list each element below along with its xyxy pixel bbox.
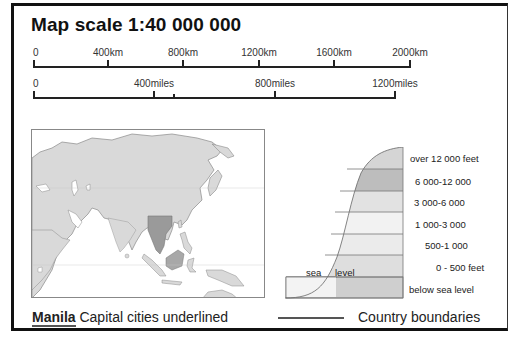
boundary-legend-text: Country boundaries: [358, 309, 480, 325]
km-scale-label: 2000km: [392, 47, 428, 58]
km-scale-label: 800km: [168, 47, 198, 58]
km-scale-label: 1600km: [316, 47, 352, 58]
eurasia-land: [32, 134, 222, 298]
capital-legend: Manila Capital cities underlined: [32, 309, 228, 325]
miles-scale-bar: 0400miles800miles1200miles: [33, 78, 433, 108]
miles-scale-tick: [33, 91, 35, 98]
km-scale-label: 1200km: [241, 47, 277, 58]
band-label-3000-6000: 3 000-6 000: [414, 197, 465, 208]
level-label: level: [335, 267, 355, 278]
locator-map: [31, 129, 265, 298]
km-scale-line: [33, 66, 411, 68]
asia-map-graphic: [32, 130, 265, 298]
band-label-6000-12000: 6 000-12 000: [415, 176, 471, 187]
km-scale-tick: [182, 60, 184, 67]
km-scale-bar: 0400km800km1200km1600km2000km: [33, 47, 433, 77]
band-label-500-1000: 500-1 000: [425, 240, 468, 251]
miles-scale-label: 0: [33, 78, 39, 89]
boundary-line-symbol: [278, 317, 344, 319]
band-label-0-500: 0 - 500 feet: [436, 262, 484, 273]
miles-scale-minor-tick: [173, 94, 175, 98]
band-label-1000-3000: 1 000-3 000: [415, 219, 466, 230]
km-scale-tick: [409, 60, 411, 67]
km-scale-tick: [258, 60, 260, 67]
miles-scale-label: 400miles: [134, 78, 174, 89]
km-scale-label: 400km: [93, 47, 123, 58]
km-scale-tick: [33, 60, 35, 67]
band-label-below-sea: below sea level: [409, 284, 474, 295]
miles-scale-label: 800miles: [255, 78, 295, 89]
band-label-over-12000: over 12 000 feet: [410, 153, 479, 164]
miles-scale-line: [33, 97, 396, 99]
miles-scale-label: 1200miles: [372, 78, 418, 89]
km-scale-tick: [333, 60, 335, 67]
sea-label: sea: [306, 267, 321, 278]
km-scale-tick: [107, 60, 109, 67]
capital-example: Manila: [32, 309, 76, 327]
capital-legend-text: Capital cities underlined: [79, 309, 228, 325]
map-scale-title: Map scale 1:40 000 000: [31, 14, 241, 36]
miles-scale-tick: [394, 91, 396, 98]
miles-scale-tick: [274, 91, 276, 98]
km-scale-label: 0: [33, 47, 39, 58]
miles-scale-tick: [153, 91, 155, 98]
